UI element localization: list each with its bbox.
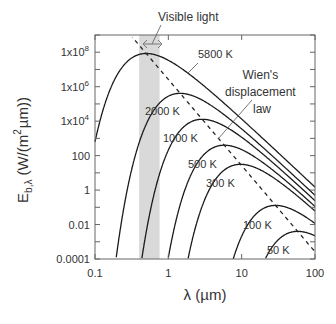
curve-label-1000k: 1000 K xyxy=(163,132,199,144)
x-tick-label: 0.1 xyxy=(87,267,102,279)
y-tick-label: 0.0001 xyxy=(56,253,90,265)
visible-light-band xyxy=(139,35,159,259)
plot-frame xyxy=(95,35,315,259)
blackbody-radiation-chart: 1x1081x1061x10410010.010.0001 0.1110100 … xyxy=(0,0,336,324)
svg-text:Eb,λ(W/(m2µm)): Eb,λ(W/(m2µm)) xyxy=(12,97,34,203)
wien-label: Wien's displacement law xyxy=(225,68,299,116)
y-tick-labels: 1x1081x1061x10410010.010.0001 xyxy=(56,44,90,265)
visible-light-label: Visible light xyxy=(158,10,219,24)
y-tick-label: 1x106 xyxy=(61,79,90,93)
x-axis-label: λ (µm) xyxy=(184,286,227,303)
y-tick-label: 0.01 xyxy=(69,219,90,231)
y-tick-label: 1x108 xyxy=(61,44,90,58)
axis-ticks xyxy=(95,35,315,259)
curve-label-50k: 50 K xyxy=(267,244,290,256)
x-tick-label: 10 xyxy=(236,267,248,279)
label-leader-5800 xyxy=(188,63,198,73)
curve-label-500k: 500 K xyxy=(188,158,217,170)
y-axis-label: Eb,λ(W/(m2µm)) xyxy=(12,97,34,203)
curve-label-100k: 100 K xyxy=(243,219,272,231)
curve-label-5800k: 5800 K xyxy=(198,48,234,60)
y-tick-label: 1x104 xyxy=(61,113,90,127)
curve-label-2000k: 2000 K xyxy=(145,105,181,117)
y-tick-label: 100 xyxy=(72,150,90,162)
x-tick-label: 100 xyxy=(306,267,324,279)
y-tick-label: 1 xyxy=(84,184,90,196)
x-tick-labels: 0.1110100 xyxy=(87,267,324,279)
x-tick-label: 1 xyxy=(165,267,171,279)
curve-label-300k: 300 K xyxy=(206,177,235,189)
